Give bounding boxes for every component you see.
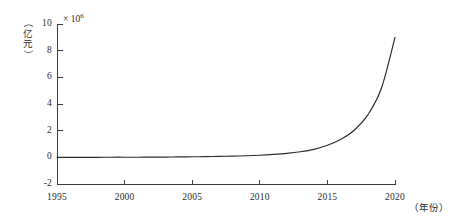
- data-series-line: [57, 37, 395, 157]
- chart-figure: （ 亿 元 ） × 106 10 8 6 4 2 0 -2 1995 2000 …: [0, 0, 463, 224]
- plot-area: [0, 0, 463, 224]
